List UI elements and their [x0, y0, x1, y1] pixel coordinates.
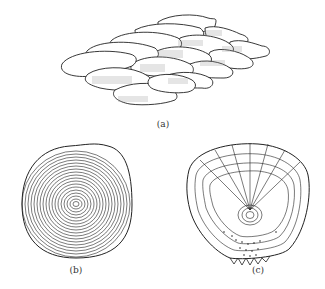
panel-b-rings — [22, 144, 132, 258]
panel-c-scale — [187, 143, 309, 265]
panel-a-scales-illustration — [0, 0, 325, 289]
panel-a-label: (a) — [157, 119, 169, 129]
figure: (a) (b) (c) — [0, 0, 325, 289]
panel-b-label: (b) — [70, 265, 83, 275]
panel-c-label: (c) — [252, 265, 264, 275]
